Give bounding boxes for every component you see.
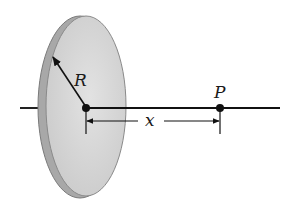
distance-label: x [145, 110, 155, 130]
point-P-label: P [213, 82, 226, 102]
radius-label: R [73, 70, 87, 90]
disk-field-diagram: R P x [0, 0, 284, 209]
